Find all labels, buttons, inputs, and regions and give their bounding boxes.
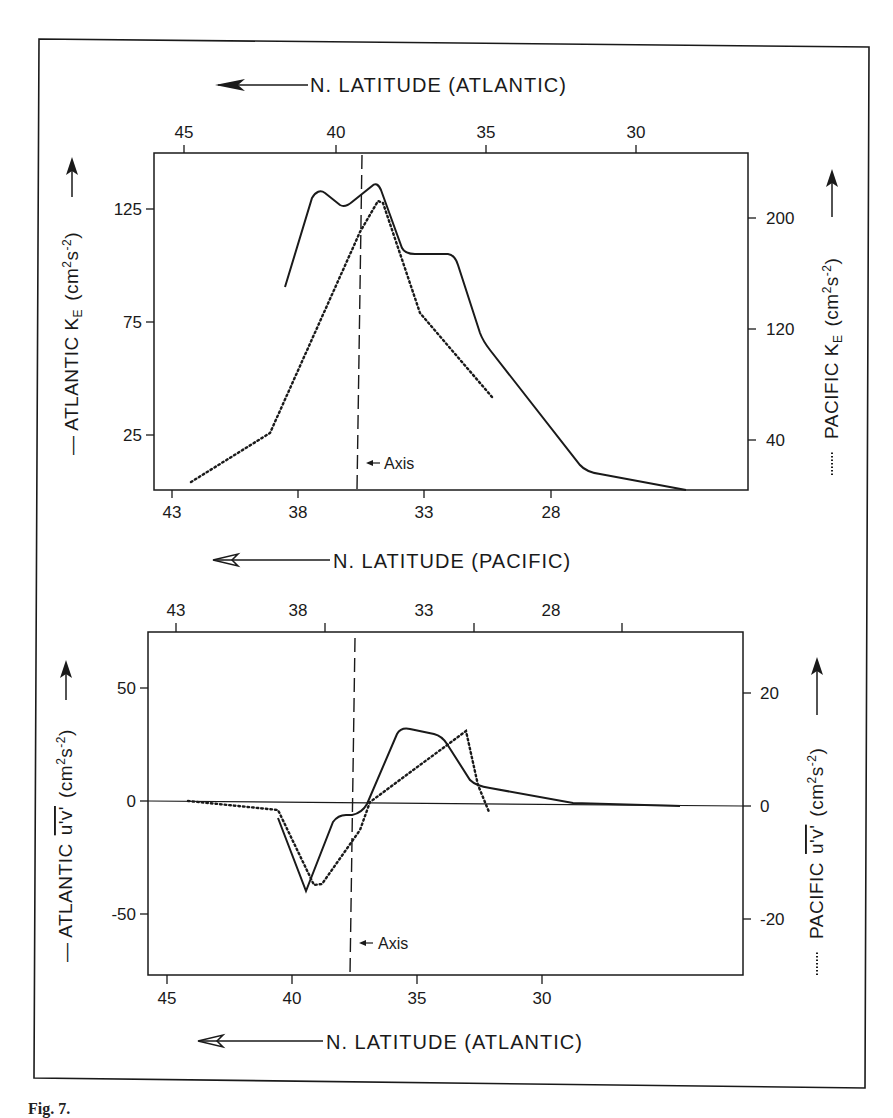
tick-label: 43 (163, 503, 182, 522)
tick-label: 45 (158, 989, 177, 1008)
top-right-ylabel: PACIFIC KE(cm2s-2) (820, 169, 845, 475)
tick-label: 45 (175, 123, 194, 142)
units: ) (806, 748, 827, 755)
tick-label: 40 (766, 431, 785, 450)
top-title-arrow-icon (215, 79, 308, 91)
superscript: 2 (60, 261, 74, 268)
axis-label: Axis (378, 935, 408, 952)
superscript: -2 (60, 239, 74, 251)
axis-marker-line (350, 638, 355, 975)
bottom-right-ylabel: PACIFICu'v'(cm2s-2) (805, 657, 827, 975)
tick-label: 30 (627, 123, 646, 142)
ylabel-text: PACIFIC K (821, 343, 842, 439)
tick-label: 38 (289, 503, 308, 522)
tick-label: 120 (766, 320, 794, 339)
bottom-title: N. LATITUDE (ATLANTIC) (326, 1031, 583, 1053)
tick-label: 28 (542, 601, 561, 620)
svg-text:PACIFIC KE(cm2s-2): PACIFIC KE(cm2s-2) (820, 258, 845, 439)
top-title: N. LATITUDE (ATLANTIC) (310, 74, 567, 96)
up-arrow-icon (811, 657, 823, 715)
uv-symbol: u'v' (806, 825, 827, 854)
subscript: E (71, 309, 85, 318)
tick-label: 20 (760, 684, 779, 703)
top-chart-right-yticks (748, 218, 756, 440)
tick-label: 50 (117, 679, 136, 698)
superscript: 2 (820, 286, 834, 293)
units: (cm (61, 268, 82, 301)
subscript: E (831, 334, 845, 343)
middle-title-arrow-icon (213, 554, 330, 566)
tick-label: 75 (123, 313, 142, 332)
series-atlantic-ke (285, 184, 686, 490)
superscript: 2 (54, 758, 68, 765)
superscript: 2 (805, 776, 819, 783)
axis-label: Axis (384, 455, 414, 472)
series-atlantic-uv (278, 729, 680, 891)
superscript: -2 (54, 736, 68, 748)
units: (cm (55, 765, 76, 798)
units: ) (821, 258, 842, 265)
series-pacific-ke (191, 201, 492, 482)
tick-label: 38 (289, 601, 308, 620)
up-arrow-icon (66, 157, 78, 197)
top-chart-top-xticks (184, 145, 636, 153)
units: s (806, 766, 827, 776)
caption-label: Fig. 7. (28, 1100, 70, 1117)
tick-label: 125 (114, 200, 142, 219)
tick-label: 35 (408, 989, 427, 1008)
units: ) (61, 232, 82, 239)
ylabel-text: PACIFIC (806, 862, 827, 939)
up-arrow-icon (826, 169, 838, 217)
figure-caption: Fig. 7. (28, 1100, 70, 1118)
bottom-chart: 43 38 33 28 45 40 35 30 50 0 -50 (54, 601, 827, 1008)
svg-text:PACIFICu'v'(cm2s-2): PACIFICu'v'(cm2s-2) (805, 748, 827, 939)
ylabel-text: — ATLANTIC (55, 843, 76, 962)
top-chart-left-yticks (146, 209, 154, 435)
tick-label: 0 (127, 792, 136, 811)
tick-label: 25 (123, 426, 142, 445)
units: s (821, 276, 842, 286)
units: ) (55, 729, 76, 736)
tick-label: 33 (415, 503, 434, 522)
tick-label: 28 (542, 503, 561, 522)
units: (cm (821, 293, 842, 326)
tick-label: 35 (477, 123, 496, 142)
axis-marker-line (357, 155, 362, 490)
tick-label: -20 (760, 910, 785, 929)
top-chart: N. LATITUDE (ATLANTIC) 45 40 35 30 43 38… (60, 74, 845, 522)
middle-title: N. LATITUDE (PACIFIC) (333, 550, 571, 572)
svg-text:— ATLANTICu'v'(cm2s-2): — ATLANTICu'v'(cm2s-2) (54, 729, 76, 962)
tick-label: 0 (760, 797, 769, 816)
series-pacific-uv (188, 731, 489, 885)
tick-label: -50 (111, 905, 136, 924)
tick-label: 40 (283, 989, 302, 1008)
units: (cm (806, 783, 827, 816)
tick-label: 43 (167, 601, 186, 620)
up-arrow-icon (60, 660, 72, 700)
bottom-chart-right-yticks (743, 693, 751, 919)
top-left-ylabel: — ATLANTIC KE(cm2s-2) (60, 157, 85, 455)
bottom-chart-bottom-xticks (167, 975, 542, 984)
bottom-chart-left-yticks (140, 688, 148, 914)
bottom-left-ylabel: — ATLANTICu'v'(cm2s-2) (54, 660, 76, 962)
axis-annotation: Axis (366, 455, 414, 472)
superscript: -2 (805, 755, 819, 767)
bottom-chart-top-xticks (176, 623, 622, 632)
axis-annotation: Axis (359, 935, 408, 952)
tick-label: 33 (415, 601, 434, 620)
tick-label: 40 (327, 123, 346, 142)
top-plot-box (154, 153, 748, 490)
tick-label: 200 (766, 209, 794, 228)
top-chart-bottom-xticks (172, 490, 551, 498)
superscript: -2 (820, 264, 834, 276)
ylabel-text: — ATLANTIC K (61, 317, 82, 455)
bottom-title-arrow-icon (198, 1035, 323, 1047)
svg-text:— ATLANTIC KE(cm2s-2): — ATLANTIC KE(cm2s-2) (60, 232, 85, 455)
tick-label: 30 (533, 989, 552, 1008)
units: s (61, 251, 82, 261)
uv-symbol: u'v' (55, 806, 76, 835)
units: s (55, 748, 76, 758)
